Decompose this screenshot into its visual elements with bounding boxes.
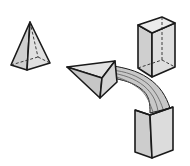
diagram-canvas [0,0,190,166]
box-bottom-right-shape [135,107,173,158]
arrowhead-shape [67,61,117,98]
pyramid-shape [11,22,50,70]
box-top-right-shape [138,17,175,77]
